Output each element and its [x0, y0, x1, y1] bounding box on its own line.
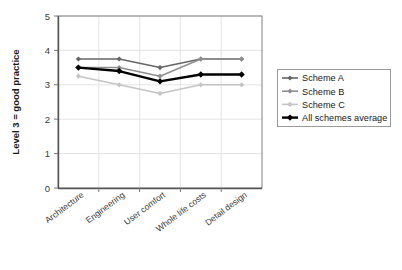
x-axis-category-labels: ArchitectureEngineeringUser comfortWhole… — [43, 189, 249, 234]
legend-item-label: Scheme A — [302, 73, 345, 83]
x-category-label: Engineering — [84, 189, 127, 225]
y-tick-label: 0 — [45, 183, 50, 194]
legend: Scheme AScheme BScheme CAll schemes aver… — [278, 70, 391, 127]
chart-canvas: 012345 Level 3 = good practice Architect… — [0, 0, 402, 270]
legend-item-label: All schemes average — [302, 113, 387, 123]
x-category-label: Detail design — [203, 189, 249, 227]
plot-area-background — [58, 16, 262, 188]
legend-item-label: Scheme C — [302, 100, 345, 110]
y-tick-label: 5 — [45, 11, 50, 22]
x-category-label: Architecture — [43, 189, 86, 225]
line-chart: 012345 Level 3 = good practice Architect… — [0, 0, 402, 270]
legend-item-label: Scheme B — [302, 87, 344, 97]
y-tick-label: 4 — [45, 45, 50, 56]
y-tick-label: 2 — [45, 114, 50, 125]
y-axis-ticks: 012345 — [45, 11, 58, 194]
y-axis-title: Level 3 = good practice — [10, 49, 21, 154]
y-tick-label: 3 — [45, 79, 50, 90]
y-tick-label: 1 — [45, 148, 50, 159]
